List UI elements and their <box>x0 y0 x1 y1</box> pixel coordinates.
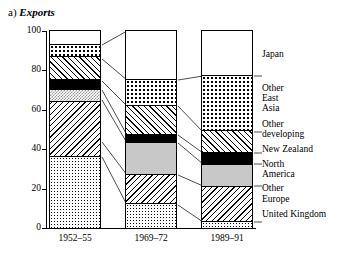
y-tick-label-80: 80 <box>32 65 42 75</box>
y-tick-label-100: 100 <box>27 26 41 36</box>
y-tick-0 <box>42 228 47 229</box>
legend-label-other-europe-1: Other <box>262 183 284 194</box>
segment-japan <box>126 31 176 80</box>
legend-label-new-zealand: New Zealand <box>262 144 313 155</box>
legend-label-united-kingdom: United Kingdom <box>262 209 326 220</box>
legend-label-other-developing-2: developing <box>262 129 304 140</box>
segment-other-developing <box>50 57 100 81</box>
segment-new-zealand <box>126 135 176 143</box>
legend-label-japan: Japan <box>262 49 284 60</box>
y-tick-80 <box>42 70 47 71</box>
segment-other-developing <box>126 106 176 136</box>
y-tick-40 <box>42 149 47 150</box>
segment-other-developing <box>202 131 252 153</box>
x-tick-label-1952-55: 1952–55 <box>40 233 110 243</box>
panel-title-text: Exports <box>19 6 54 18</box>
exports-stacked-bar-chart: a) Exports <box>0 0 356 257</box>
plot-area: 0 20 40 60 80 100 <box>47 31 256 228</box>
segment-united-kingdom <box>50 157 100 228</box>
segment-north-america <box>202 165 252 187</box>
y-tick-label-60: 60 <box>32 105 42 115</box>
legend-label-other-east-asia-1: Other <box>262 83 284 94</box>
y-tick-100 <box>42 31 47 32</box>
legend-label-north-america-2: America <box>262 169 295 180</box>
legend-label-other-developing-1: Other <box>262 119 284 130</box>
y-tick-label-20: 20 <box>32 184 42 194</box>
bar-1989-91 <box>201 30 253 228</box>
legend-label-other-europe-2: Europe <box>262 194 289 205</box>
legend-label-other-east-asia-3: Asia <box>262 103 279 114</box>
bar-1969-72 <box>125 30 177 228</box>
segment-japan <box>50 31 100 45</box>
page-title: a) Exports <box>8 6 55 18</box>
y-tick-label-0: 0 <box>36 223 41 233</box>
segment-other-europe <box>126 175 176 205</box>
segment-other-east-asia <box>202 76 252 131</box>
legend-label-north-america-1: North <box>262 159 284 170</box>
segment-united-kingdom <box>126 204 176 228</box>
panel-index: a) <box>8 6 17 18</box>
segment-japan <box>202 31 252 76</box>
segment-other-east-asia <box>50 45 100 57</box>
x-tick-label-1969-72: 1969–72 <box>116 233 186 243</box>
segment-new-zealand <box>202 153 252 165</box>
bar-1952-55 <box>49 30 101 228</box>
y-tick-label-40: 40 <box>32 144 42 154</box>
segment-united-kingdom <box>202 222 252 228</box>
x-tick-label-1989-91: 1989–91 <box>192 233 262 243</box>
segment-other-east-asia <box>126 80 176 106</box>
y-tick-60 <box>42 110 47 111</box>
segment-north-america <box>126 143 176 175</box>
segment-other-europe <box>50 102 100 157</box>
segment-north-america <box>50 90 100 102</box>
y-tick-20 <box>42 189 47 190</box>
segment-new-zealand <box>50 80 100 90</box>
legend-label-other-east-asia-2: East <box>262 93 278 104</box>
x-axis-line <box>46 228 256 229</box>
y-axis-line <box>46 31 47 229</box>
segment-other-europe <box>202 187 252 223</box>
chart-legend: Japan Other East Asia Other developing N… <box>262 31 356 231</box>
